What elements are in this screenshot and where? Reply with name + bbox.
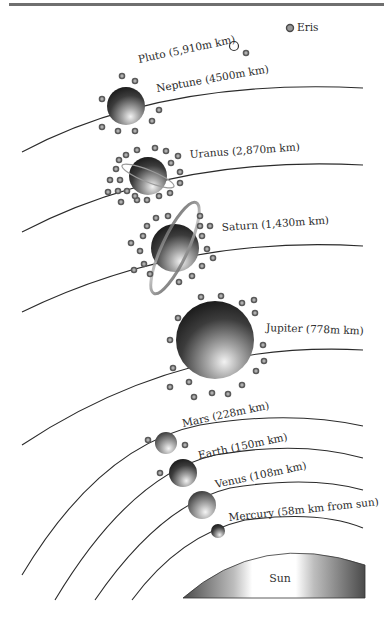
uranus-label: Uranus (2,870m km) bbox=[189, 140, 300, 160]
earth-label: Earth (150m km) bbox=[197, 430, 289, 461]
top-rule bbox=[9, 3, 384, 6]
eris-label: Eris bbox=[297, 21, 318, 33]
venus-label: Venus (108m km) bbox=[213, 459, 307, 490]
planet-jupiter: Jupiter (778m km) bbox=[168, 294, 364, 400]
earth-moon bbox=[158, 471, 163, 476]
mars-label: Mars (228m km) bbox=[181, 399, 270, 429]
dwarf-planet-pluto: Pluto (5,910m km) bbox=[137, 33, 249, 65]
pluto-label: Pluto (5,910m km) bbox=[137, 33, 236, 65]
mercury-label: Mercury (58m km from sun) bbox=[228, 495, 379, 523]
planet-saturn: Saturn (1,430m km) bbox=[129, 197, 330, 299]
jupiter-label: Jupiter (778m km) bbox=[265, 321, 364, 336]
solar-system-diagram: Sun Mercury (58m km from sun) Venus (108… bbox=[0, 0, 388, 619]
pluto-moon-charon bbox=[244, 51, 249, 56]
orbit-neptune bbox=[22, 87, 363, 152]
sun-label: Sun bbox=[269, 572, 291, 585]
dwarf-planet-eris: Eris bbox=[287, 21, 319, 33]
mars-moon-deimos bbox=[183, 443, 188, 448]
mars-moon-phobos bbox=[146, 438, 151, 443]
saturn-label: Saturn (1,430m km) bbox=[221, 214, 329, 233]
sun: Sun bbox=[183, 553, 365, 598]
